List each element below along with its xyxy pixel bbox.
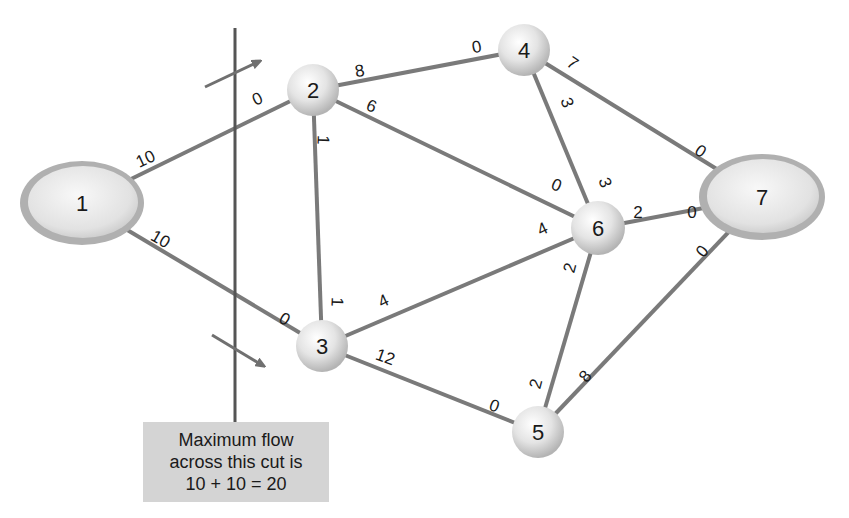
node-label: 6 — [592, 216, 604, 241]
edge-capacity-label: 12 — [373, 345, 397, 369]
cut-caption-box: Maximum flow across this cut is 10 + 10 … — [143, 422, 329, 502]
node-label: 2 — [307, 78, 319, 103]
edge-capacity-label: 6 — [363, 95, 379, 116]
edge-capacity-label: 0 — [687, 203, 696, 222]
edge-3-5 — [322, 346, 538, 432]
node-label: 7 — [756, 185, 768, 210]
edge-capacity-label: 4 — [534, 218, 551, 239]
node-5: 5 — [512, 406, 564, 458]
edge-2-3 — [313, 90, 322, 346]
node-label: 1 — [76, 191, 88, 216]
edge-capacity-label: 2 — [633, 203, 642, 222]
edge-3-6 — [322, 228, 598, 346]
node-3: 3 — [296, 320, 348, 372]
cut-direction-arrow-icon — [212, 335, 262, 365]
node-label: 5 — [532, 420, 544, 445]
node-label: 4 — [518, 38, 530, 63]
edge-capacity-label: 3 — [556, 95, 577, 110]
cut-caption-line-3: 10 + 10 = 20 — [143, 473, 329, 495]
edge-capacity-label: 0 — [692, 242, 713, 261]
edge-capacity-label: 4 — [375, 290, 392, 311]
edge-capacity-label: 0 — [487, 395, 502, 416]
edge-capacity-label: 2 — [560, 261, 581, 275]
edge-capacity-label: 2 — [526, 377, 547, 391]
edge-4-6 — [524, 50, 598, 228]
edge-2-4 — [313, 50, 524, 90]
edge-2-6 — [313, 90, 598, 228]
edge-capacity-label: 8 — [575, 367, 596, 386]
edge-capacity-label: 8 — [354, 61, 367, 81]
edge-capacity-label: 10 — [148, 226, 174, 252]
edge-capacity-labels: 100100806011441203370202208 — [133, 37, 713, 417]
cut-direction-arrow-icon — [205, 62, 258, 87]
node-7: 7 — [699, 154, 825, 240]
node-2: 2 — [287, 64, 339, 116]
cut-caption-line-1: Maximum flow — [143, 429, 329, 451]
node-1: 1 — [20, 161, 144, 245]
edge-capacity-label: 0 — [548, 174, 564, 195]
cut-caption-line-2: across this cut is — [143, 451, 329, 473]
edge-capacity-label: 0 — [249, 88, 266, 109]
cut-layer — [205, 28, 262, 422]
edge-capacity-label: 7 — [563, 53, 582, 74]
flow-network-diagram: 1234567 100100806011441203370202208 — [0, 0, 849, 518]
edge-capacity-label: 1 — [313, 135, 332, 145]
nodes-layer: 1234567 — [20, 24, 825, 458]
node-label: 3 — [316, 334, 328, 359]
edge-capacity-label: 0 — [691, 141, 710, 162]
edge-capacity-label: 1 — [327, 297, 346, 307]
node-6: 6 — [571, 201, 625, 255]
edge-capacity-label: 0 — [471, 37, 484, 57]
edge-capacity-label: 3 — [594, 175, 615, 190]
edges-layer — [82, 50, 762, 432]
node-4: 4 — [498, 24, 550, 76]
